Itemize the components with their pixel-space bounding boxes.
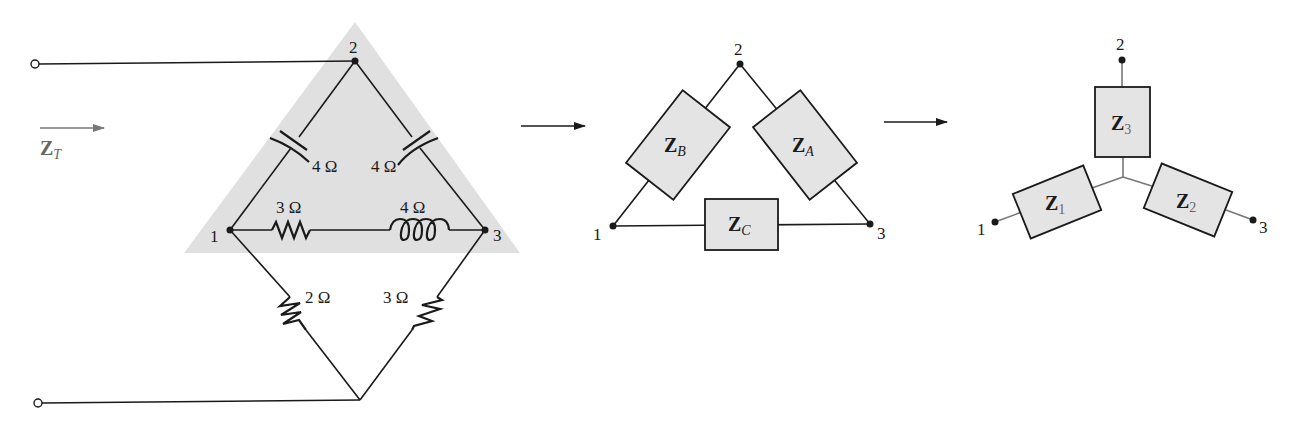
delta-node-2-dot	[737, 61, 744, 68]
wye-wire-1	[995, 212, 1022, 222]
delta-wye-conversion-diagram: ZT 4 Ω 4 Ω 3 Ω 4 Ω 2 Ω	[0, 0, 1304, 424]
resistor-2ohm-icon	[280, 297, 306, 330]
wye-node-3-label: 3	[1259, 218, 1268, 237]
ind-top-value: 4 Ω	[400, 198, 425, 217]
zt-label: ZT	[40, 137, 62, 162]
cap-right-value: 4 Ω	[371, 157, 396, 176]
node-1-label: 1	[210, 227, 219, 246]
wye-wire-to-z2	[1123, 177, 1155, 187]
cap-left-value: 4 Ω	[312, 157, 337, 176]
res-bottom-left-value: 2 Ω	[305, 288, 330, 307]
wye-node-2-dot	[1119, 57, 1126, 64]
node-3-dot	[482, 227, 489, 234]
delta-node-1-dot	[610, 223, 617, 230]
res-top-value: 3 Ω	[276, 198, 301, 217]
wye-panel: Z3 Z1 Z2 2 1 3	[977, 35, 1268, 239]
wye-node-3-dot	[1250, 217, 1257, 224]
node-3-label: 3	[493, 226, 502, 245]
delta-panel: ZB ZA ZC 2 1 3	[593, 40, 886, 250]
top-input-wire	[39, 61, 355, 64]
bottom-input-wire	[42, 400, 360, 403]
node-1-dot	[227, 227, 234, 234]
wye-wire-3	[1226, 210, 1253, 220]
delta-node-3-label: 3	[877, 224, 886, 243]
original-network-panel: ZT 4 Ω 4 Ω 3 Ω 4 Ω 2 Ω	[31, 22, 520, 407]
wire-res-3ohm-to-bottom	[360, 330, 412, 400]
wye-node-1-dot	[992, 219, 999, 226]
input-terminal-bottom[interactable]	[34, 399, 42, 407]
node-2-dot	[352, 58, 359, 65]
wye-node-1-label: 1	[977, 220, 986, 239]
delta-node-1-label: 1	[593, 225, 602, 244]
input-terminal-top[interactable]	[31, 60, 39, 68]
delta-node-3-dot	[867, 221, 874, 228]
wire-res-2ohm-to-bottom	[306, 330, 360, 400]
resistor-3ohm-bottom-icon	[412, 297, 442, 330]
node-2-label: 2	[349, 38, 358, 57]
res-bottom-right-value: 3 Ω	[383, 288, 408, 307]
wye-node-2-label: 2	[1116, 35, 1125, 54]
wye-wire-to-z1	[1092, 177, 1123, 188]
delta-node-2-label: 2	[734, 40, 743, 59]
